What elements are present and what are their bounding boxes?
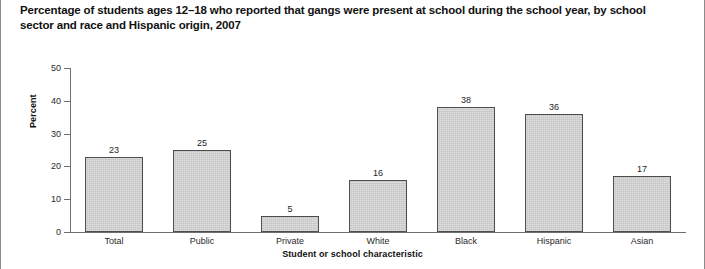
y-tick-label: 10 [51,194,61,204]
chart-title: Percentage of students ages 12–18 who re… [20,3,680,32]
y-tick-mark [64,68,70,69]
y-tick-mark [64,101,70,102]
chart-figure: Percentage of students ages 12–18 who re… [0,0,705,269]
x-tick-label-private: Private [246,236,334,246]
bar-value-label: 38 [461,95,471,105]
bar-value-label: 25 [197,138,207,148]
bar-value-label: 23 [109,145,119,155]
bar-private: 5 [261,216,319,232]
plot-area: 01020304050 2325516383617 TotalPublicPri… [70,68,686,232]
y-tick-mark [64,232,70,233]
y-tick-mark [64,199,70,200]
x-tick-label-total: Total [70,236,158,246]
bar-value-label: 16 [373,168,383,178]
bar-white: 16 [349,180,407,232]
y-tick-mark [64,134,70,135]
y-tick-label: 20 [51,161,61,171]
x-tick-label-hispanic: Hispanic [510,236,598,246]
x-tick-label-public: Public [158,236,246,246]
bar-asian: 17 [613,176,671,232]
y-tick-label: 50 [51,63,61,73]
x-tick-label-asian: Asian [598,236,686,246]
bar-hispanic: 36 [525,114,583,232]
bar-value-label: 5 [287,204,292,214]
y-axis-line [70,68,71,233]
bar-black: 38 [437,107,495,232]
x-axis-line [64,232,686,233]
x-tick-label-black: Black [422,236,510,246]
y-tick-mark [64,166,70,167]
x-tick-label-white: White [334,236,422,246]
y-tick-label: 30 [51,129,61,139]
bar-public: 25 [173,150,231,232]
y-tick-label: 0 [56,227,61,237]
bar-value-label: 36 [549,102,559,112]
y-tick-label: 40 [51,96,61,106]
bar-value-label: 17 [637,164,647,174]
y-axis-title: Percent [28,94,38,128]
bar-total: 23 [85,157,143,232]
x-axis-title: Student or school characteristic [1,249,704,259]
